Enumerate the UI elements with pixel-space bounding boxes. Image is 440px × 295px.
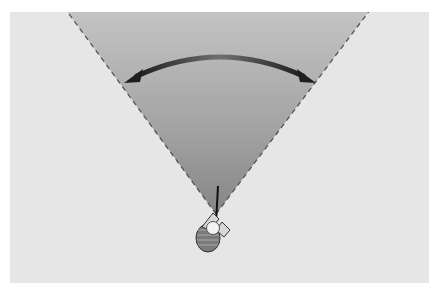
view-cone bbox=[66, 10, 370, 214]
angle-diagram bbox=[0, 0, 440, 295]
